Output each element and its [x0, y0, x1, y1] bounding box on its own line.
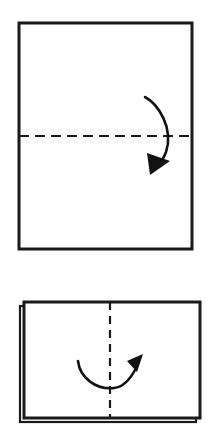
- diagram-canvas: [0, 0, 216, 442]
- origami-diagram-root: Paper folding instruction diagram Step 1…: [0, 0, 216, 442]
- step-2-group: [20, 302, 200, 422]
- landscape-sheet-face: [24, 302, 200, 418]
- step-1-group: [19, 23, 192, 249]
